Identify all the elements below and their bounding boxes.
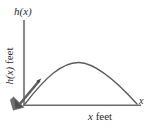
x-axis-units-word: feet	[93, 110, 112, 122]
x-axis-tip-label: x	[139, 95, 143, 106]
launch-arrow-shaft	[19, 81, 40, 106]
trajectory-curve	[25, 62, 137, 104]
y-axis-top-label: h(x)	[14, 5, 32, 17]
trajectory-figure	[0, 0, 149, 129]
x-axis-units-label: x feet	[88, 110, 112, 122]
y-axis-units-variable: h(x)	[3, 67, 15, 85]
y-axis-units-label: h(x) feet	[3, 38, 15, 94]
y-axis-units-word: feet	[3, 48, 15, 67]
